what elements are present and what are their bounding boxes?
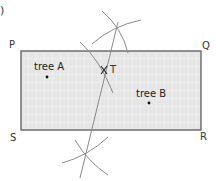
bottom-arc-2 bbox=[75, 140, 108, 175]
top-arc-1 bbox=[92, 20, 141, 44]
tree-b-label: tree B bbox=[136, 89, 166, 99]
fragment-label: ) bbox=[0, 5, 4, 16]
top-arc-2 bbox=[102, 11, 128, 53]
corner-label-r: R bbox=[200, 132, 207, 142]
tree-a-label: tree A bbox=[34, 62, 64, 72]
tree-a-point bbox=[46, 76, 49, 79]
construction-diagram bbox=[0, 0, 216, 181]
corner-label-p: P bbox=[9, 40, 15, 50]
tree-b-point bbox=[148, 102, 151, 105]
point-t-label: T bbox=[110, 65, 116, 75]
corner-label-s: S bbox=[10, 133, 16, 143]
corner-label-q: Q bbox=[202, 41, 210, 51]
